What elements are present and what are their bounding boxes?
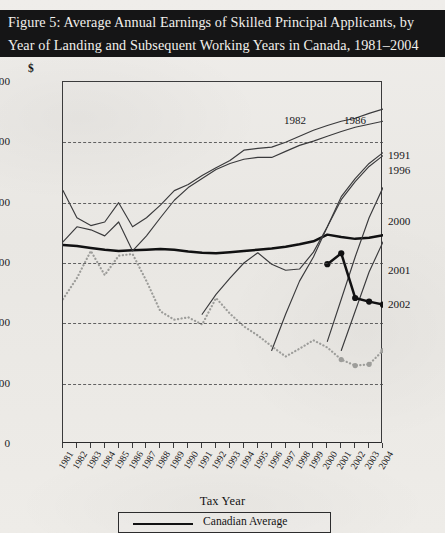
x-tick-mark-1994 (243, 443, 244, 448)
series-line-recent-entrant-average (63, 251, 383, 366)
x-tick-mark-1999 (312, 443, 313, 448)
series-line-canadian-average (63, 235, 383, 254)
figure-title-line-2: Year of Landing and Subsequent Working Y… (8, 34, 437, 57)
x-tick-mark-1992 (215, 443, 216, 448)
series-marker-dotted-2002 (353, 363, 358, 368)
x-axis-title: Tax Year (0, 494, 445, 509)
figure-page: Figure 5: Average Annual Earnings of Ski… (0, 0, 445, 533)
x-tick-mark-1981 (62, 443, 63, 448)
series-marker-2004 (380, 302, 383, 308)
right-label-2000: 2000 (388, 215, 410, 227)
figure-title-banner: Figure 5: Average Annual Earnings of Ski… (0, 10, 445, 57)
x-tick-mark-1989 (173, 443, 174, 448)
x-tick-mark-1987 (145, 443, 146, 448)
gridline-30000 (63, 263, 383, 264)
x-tick-mark-1984 (104, 443, 105, 448)
series-line-2001-cohort (341, 242, 383, 351)
x-tick-mark-1982 (76, 443, 77, 448)
y-tick-40000: 40,000 (0, 196, 10, 208)
x-tick-mark-1997 (285, 443, 286, 448)
gridline-50000 (63, 142, 383, 143)
series-marker-2002 (352, 295, 358, 301)
series-marker-dotted-2003 (366, 362, 371, 367)
legend-swatch-canadian-average (133, 523, 193, 525)
gridline-10000 (63, 384, 383, 385)
right-label-1996: 1996 (388, 164, 410, 176)
inline-label-1982: 1982 (284, 114, 306, 126)
inline-label-1986: 1986 (344, 114, 366, 126)
y-tick-10000: 10,000 (0, 377, 10, 389)
x-tick-mark-2002 (354, 443, 355, 448)
series-marker-dotted-2001 (339, 357, 344, 362)
series-line-1991-cohort (202, 153, 383, 315)
series-marker-2001 (338, 250, 344, 256)
right-label-1991: 1991 (388, 149, 410, 161)
y-tick-60000: 60,000 (0, 75, 10, 87)
x-tick-mark-1985 (118, 443, 119, 448)
x-tick-mark-1998 (299, 443, 300, 448)
y-axis-tick-labels: 60,000 50,000 40,000 30,000 20,000 10,00… (0, 0, 62, 533)
legend-label-canadian-average: Canadian Average (203, 515, 287, 528)
series-line-1996-cohort (272, 156, 383, 351)
right-label-2002: 2002 (388, 298, 410, 310)
x-tick-mark-1990 (187, 443, 188, 448)
figure-title-line-1: Figure 5: Average Annual Earnings of Ski… (8, 11, 437, 34)
right-label-2001: 2001 (388, 264, 410, 276)
legend-box: Canadian Average (118, 512, 331, 533)
series-line-1986-cohort (63, 121, 383, 251)
y-tick-50000: 50,000 (0, 135, 10, 147)
x-tick-mark-2004 (382, 443, 383, 448)
y-tick-30000: 30,000 (0, 256, 10, 268)
plot-area (62, 81, 382, 443)
x-tick-mark-1986 (132, 443, 133, 448)
x-tick-mark-2003 (368, 443, 369, 448)
x-tick-mark-1995 (257, 443, 258, 448)
x-tick-mark-1988 (159, 443, 160, 448)
x-tick-mark-1993 (229, 443, 230, 448)
x-tick-mark-1996 (271, 443, 272, 448)
y-tick-20000: 20,000 (0, 316, 10, 328)
x-tick-mark-1991 (201, 443, 202, 448)
x-tick-mark-1983 (90, 443, 91, 448)
gridline-20000 (63, 323, 383, 324)
series-marker-2003 (366, 299, 372, 305)
gridline-40000 (63, 203, 383, 204)
x-tick-mark-2000 (326, 443, 327, 448)
x-tick-mark-2001 (340, 443, 341, 448)
y-tick-0: 0 (0, 437, 10, 449)
